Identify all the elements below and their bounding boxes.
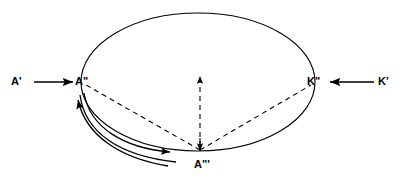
arc-outbound-middle [80, 95, 176, 162]
diagram-canvas [0, 0, 404, 184]
label-k-prime: K' [378, 76, 389, 87]
arc-outbound-inner [84, 93, 170, 152]
diagram-figure: A' A" A"' K" K' [0, 0, 404, 184]
label-k-double-prime: K" [307, 76, 320, 87]
main-ellipse [81, 13, 315, 151]
label-a-triple-prime: A"' [194, 159, 210, 170]
label-a-prime: A' [11, 76, 22, 87]
label-a-double-prime: A" [75, 76, 88, 87]
dashed-line-a-triple-to-k-double [200, 85, 311, 150]
